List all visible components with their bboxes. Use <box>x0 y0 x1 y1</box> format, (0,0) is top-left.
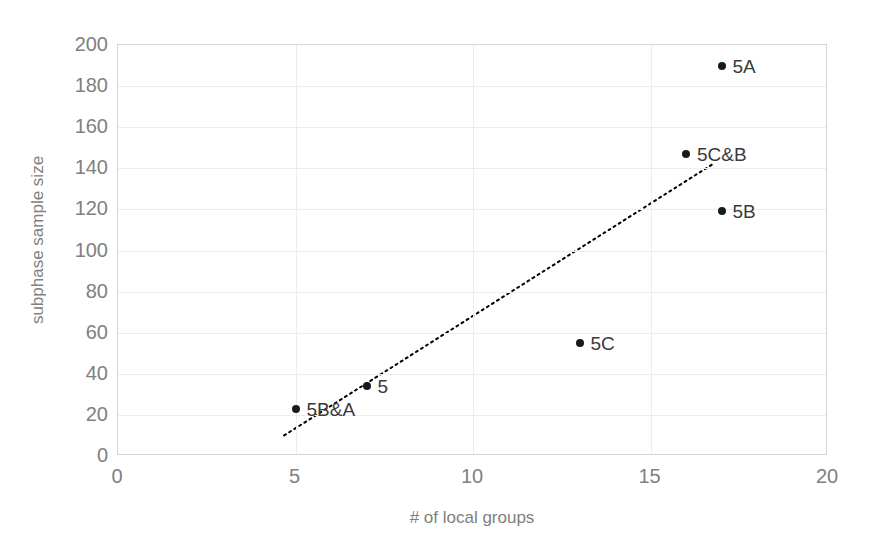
gridline-horizontal <box>118 415 826 416</box>
gridline-vertical <box>296 45 297 454</box>
y-axis-tick-label: 40 <box>8 363 108 383</box>
data-point[interactable] <box>682 150 690 158</box>
data-point-label: 5C&B <box>697 144 747 163</box>
gridline-horizontal <box>118 86 826 87</box>
y-axis-tick-labels: 020406080100120140160180200 <box>0 44 108 455</box>
x-axis-tick-label: 10 <box>432 466 512 486</box>
data-point[interactable] <box>363 382 371 390</box>
y-axis-tick-label: 0 <box>8 445 108 465</box>
data-point[interactable] <box>576 339 584 347</box>
y-axis-tick-label: 120 <box>8 198 108 218</box>
x-axis-tick-label: 0 <box>77 466 157 486</box>
x-axis-tick-labels: 05101520 <box>117 466 827 494</box>
gridline-horizontal <box>118 374 826 375</box>
x-axis-tick-label: 15 <box>610 466 690 486</box>
x-axis-tick-label: 20 <box>787 466 867 486</box>
data-point[interactable] <box>718 207 726 215</box>
x-axis-title: # of local groups <box>117 508 827 528</box>
gridline-horizontal <box>118 333 826 334</box>
y-axis-tick-label: 80 <box>8 281 108 301</box>
y-axis-tick-label: 160 <box>8 116 108 136</box>
y-axis-tick-label: 200 <box>8 34 108 54</box>
gridline-horizontal <box>118 251 826 252</box>
y-axis-tick-label: 20 <box>8 404 108 424</box>
gridline-horizontal <box>118 168 826 169</box>
y-axis-title: subphase sample size <box>28 110 48 370</box>
x-axis-tick-label: 5 <box>255 466 335 486</box>
gridline-horizontal <box>118 292 826 293</box>
gridline-vertical <box>651 45 652 454</box>
data-point[interactable] <box>292 405 300 413</box>
y-axis-tick-label: 140 <box>8 157 108 177</box>
data-point-label: 5 <box>378 377 389 396</box>
data-point-label: 5A <box>733 56 756 75</box>
y-axis-tick-label: 180 <box>8 75 108 95</box>
data-point-label: 5B&A <box>307 399 356 418</box>
plot-area: 5B&A55C5B5C&B5A <box>117 44 827 455</box>
data-point-label: 5C <box>591 333 615 352</box>
data-point-label: 5B <box>733 202 756 221</box>
y-axis-tick-label: 60 <box>8 322 108 342</box>
y-axis-tick-label: 100 <box>8 240 108 260</box>
data-point[interactable] <box>718 62 726 70</box>
gridline-horizontal <box>118 127 826 128</box>
scatter-chart: 020406080100120140160180200 subphase sam… <box>0 0 871 556</box>
gridline-vertical <box>473 45 474 454</box>
